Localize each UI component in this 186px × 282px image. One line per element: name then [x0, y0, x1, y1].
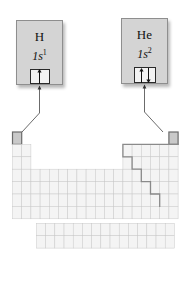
element-cell: [22, 182, 31, 194]
element-cell: [68, 194, 77, 206]
element-cell: [59, 169, 68, 181]
element-cell: [13, 206, 22, 218]
element-cell: [123, 144, 132, 156]
element-cell: [160, 206, 169, 218]
element-cell: [77, 194, 86, 206]
element-cell: [151, 194, 160, 206]
subshell-label-helium: 1s: [137, 47, 148, 61]
element-cell: [86, 169, 95, 181]
element-cell: [123, 194, 132, 206]
element-cell: [49, 206, 58, 218]
element-cell: [141, 169, 150, 181]
element-cell: [22, 157, 31, 169]
orbital-box-helium: [134, 67, 156, 83]
element-cell: [13, 144, 22, 156]
spin-arrows-hydrogen: [31, 70, 49, 83]
element-cell: [132, 194, 141, 206]
f-block-cell: [46, 236, 55, 248]
electron-count-hydrogen: 1: [43, 48, 47, 57]
element-cell: [31, 206, 40, 218]
element-cell: [114, 169, 123, 181]
element-cell: [132, 144, 141, 156]
element-cell: [114, 182, 123, 194]
element-cell: [169, 169, 178, 181]
element-symbol-hydrogen: H: [35, 30, 45, 43]
element-cell: [105, 206, 114, 218]
f-block-cell: [128, 223, 137, 235]
callout-hydrogen: H 1s1: [16, 20, 63, 85]
element-cell: [132, 206, 141, 218]
element-cell: [86, 206, 95, 218]
electron-configuration-hydrogen: 1s1: [32, 49, 47, 62]
element-cell: [169, 194, 178, 206]
element-cell: [77, 182, 86, 194]
element-cell: [141, 206, 150, 218]
element-cell: [22, 194, 31, 206]
subshell-label-hydrogen: 1s: [32, 49, 43, 63]
element-cell: [114, 194, 123, 206]
element-cell: [13, 157, 22, 169]
f-block-cell: [147, 223, 156, 235]
element-cell: [77, 206, 86, 218]
f-block-cell: [110, 223, 119, 235]
spin-up-arrow-icon: [37, 69, 42, 84]
element-cell: [31, 182, 40, 194]
element-cell: [105, 182, 114, 194]
periodic-table-figure: H 1s1 He 1s2: [0, 0, 186, 282]
f-block-cell: [92, 223, 101, 235]
spin-down-arrow-icon: [146, 68, 151, 83]
element-cell: [151, 169, 160, 181]
element-cell: [95, 206, 104, 218]
element-cell: [123, 169, 132, 181]
helium-cell[interactable]: [169, 132, 178, 144]
f-block-cell: [165, 236, 174, 248]
element-cell: [160, 157, 169, 169]
f-block-cell: [101, 236, 110, 248]
element-cell: [31, 194, 40, 206]
element-cell: [151, 182, 160, 194]
element-cell: [40, 194, 49, 206]
element-cell: [141, 182, 150, 194]
element-cell: [105, 169, 114, 181]
element-cell: [68, 182, 77, 194]
f-block-cell: [119, 223, 128, 235]
element-cell: [151, 144, 160, 156]
element-cell: [86, 182, 95, 194]
callout-helium: He 1s2: [121, 18, 168, 84]
f-block-cells: [36, 223, 174, 248]
f-block-cell: [36, 223, 45, 235]
element-cell: [40, 182, 49, 194]
element-cell: [49, 169, 58, 181]
element-cell: [151, 206, 160, 218]
element-cell: [31, 169, 40, 181]
element-cell: [22, 206, 31, 218]
element-cell: [123, 157, 132, 169]
f-block-cell: [55, 223, 64, 235]
f-block-cell: [138, 223, 147, 235]
element-cell: [169, 144, 178, 156]
hydrogen-cell[interactable]: [13, 132, 22, 144]
f-block-cell: [156, 236, 165, 248]
element-cell: [77, 169, 86, 181]
element-cell: [169, 182, 178, 194]
element-cell: [169, 157, 178, 169]
f-block-cell: [165, 223, 174, 235]
element-cell: [160, 169, 169, 181]
f-block-cell: [110, 236, 119, 248]
element-cell: [40, 169, 49, 181]
f-block-cell: [119, 236, 128, 248]
element-cell: [95, 194, 104, 206]
element-cell: [141, 194, 150, 206]
element-symbol-helium: He: [137, 28, 153, 41]
element-cell: [123, 182, 132, 194]
element-cell: [95, 169, 104, 181]
orbital-box-hydrogen: [30, 69, 50, 84]
element-cell: [13, 182, 22, 194]
element-cell: [141, 157, 150, 169]
element-cell: [160, 194, 169, 206]
element-cell: [151, 157, 160, 169]
element-cell: [169, 206, 178, 218]
element-cell: [160, 144, 169, 156]
f-block-cell: [73, 223, 82, 235]
element-cell: [59, 182, 68, 194]
